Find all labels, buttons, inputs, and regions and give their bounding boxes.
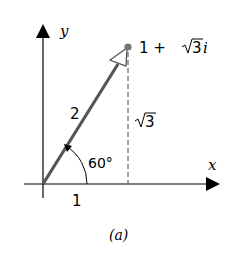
y-axis-label: y: [59, 22, 69, 40]
point-label-suffix: i: [203, 39, 208, 57]
point-label-sqrt-arg: 3: [192, 39, 202, 57]
figure-caption: (a): [109, 227, 128, 243]
complex-plane-diagram: y x 1 + 3 i 2 3 60° 1 (a): [0, 0, 245, 255]
vector-arrowhead-icon: [110, 48, 127, 66]
point-marker: [124, 43, 131, 50]
vertical-segment-label: 3: [145, 113, 155, 131]
x-axis-arrowhead-icon: [206, 177, 220, 191]
horizontal-segment-label: 1: [72, 192, 82, 210]
angle-label: 60°: [88, 155, 113, 171]
point-label-prefix: 1 +: [139, 39, 171, 57]
y-axis-arrowhead-icon: [36, 24, 50, 38]
angle-arc: [66, 146, 87, 184]
vector-length-label: 2: [70, 105, 80, 123]
x-axis-label: x: [208, 156, 217, 174]
